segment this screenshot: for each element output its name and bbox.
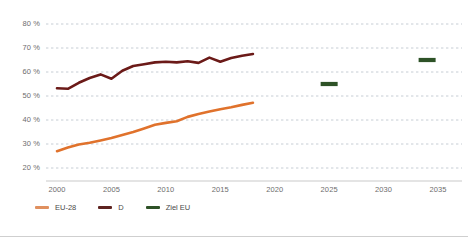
x-axis-tick-label: 2005 bbox=[91, 185, 131, 194]
legend-item-d[interactable]: D bbox=[98, 203, 123, 212]
legend-label: Ziel EU bbox=[166, 203, 191, 212]
gridlines-group bbox=[46, 24, 462, 168]
y-axis-tick-label: 40 % bbox=[12, 115, 40, 124]
y-axis-tick-label: 70 % bbox=[12, 43, 40, 52]
y-axis-tick-label: 30 % bbox=[12, 139, 40, 148]
legend-swatch-icon bbox=[98, 206, 112, 208]
legend-label: EU-28 bbox=[55, 203, 76, 212]
y-axis-tick-label: 60 % bbox=[12, 67, 40, 76]
target-marker bbox=[321, 82, 338, 86]
chart-legend: EU-28DZiel EU bbox=[35, 203, 190, 212]
series-line-d bbox=[57, 54, 253, 89]
x-axis-tick-label: 2015 bbox=[200, 185, 240, 194]
x-axis-tick-label: 2020 bbox=[255, 185, 295, 194]
legend-swatch-icon bbox=[146, 206, 160, 208]
x-axis-tick-label: 2010 bbox=[146, 185, 186, 194]
legend-label: D bbox=[118, 203, 123, 212]
legend-swatch-icon bbox=[35, 206, 49, 208]
chart-container: 20 %30 %40 %50 %60 %70 %80 % 20002005201… bbox=[0, 0, 468, 242]
y-axis-tick-label: 20 % bbox=[12, 163, 40, 172]
legend-item-ziel-eu[interactable]: Ziel EU bbox=[146, 203, 191, 212]
x-axis-tick-label: 2035 bbox=[418, 185, 458, 194]
series-line-eu-28 bbox=[57, 103, 253, 151]
bottom-divider bbox=[0, 236, 468, 237]
x-axis-tick-label: 2025 bbox=[309, 185, 349, 194]
series-group bbox=[57, 54, 436, 151]
target-marker bbox=[419, 58, 436, 62]
y-axis-tick-label: 80 % bbox=[12, 19, 40, 28]
legend-item-eu-28[interactable]: EU-28 bbox=[35, 203, 76, 212]
x-axis-tick-label: 2030 bbox=[364, 185, 404, 194]
y-axis-tick-label: 50 % bbox=[12, 91, 40, 100]
x-axis-tick-label: 2000 bbox=[37, 185, 77, 194]
